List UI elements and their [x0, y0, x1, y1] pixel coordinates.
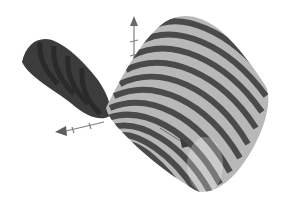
saddle-figure [0, 0, 284, 204]
z-axis-arrow-icon [130, 16, 138, 26]
x-axis-arrow-icon [55, 126, 67, 136]
saddle-back-face [22, 39, 110, 118]
x-axis [55, 122, 104, 136]
saddle-front-surface [106, 16, 268, 200]
